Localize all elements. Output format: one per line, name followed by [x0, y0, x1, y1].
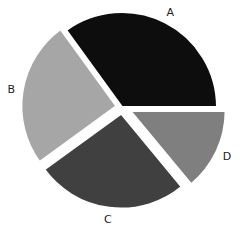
- slice-label-d: D: [223, 150, 231, 163]
- pie-chart: ABCD: [0, 0, 248, 236]
- slice-label-a: A: [167, 6, 175, 19]
- slice-label-b: B: [8, 83, 16, 96]
- pie-slices: [21, 12, 225, 209]
- slice-label-c: C: [104, 213, 112, 226]
